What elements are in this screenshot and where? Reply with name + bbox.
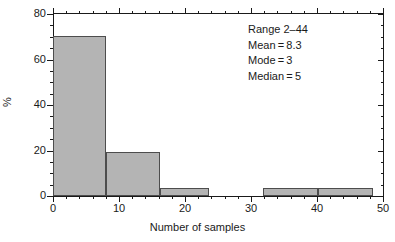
histogram-figure: 01020304050020406080 Number of samples %… xyxy=(0,0,395,242)
y-tick-major xyxy=(47,196,53,197)
x-tick-minor-top xyxy=(370,11,371,14)
x-tick-minor xyxy=(132,196,133,199)
y-tick-major-right xyxy=(378,151,384,152)
x-tick-minor xyxy=(198,196,199,199)
x-tick-minor xyxy=(159,196,160,199)
y-tick-minor xyxy=(50,71,53,72)
y-tick-minor xyxy=(50,37,53,38)
x-tick-minor-top xyxy=(304,11,305,14)
x-tick-minor-top xyxy=(264,11,265,14)
y-tick-major-right xyxy=(378,60,384,61)
y-tick-minor-right xyxy=(381,173,384,174)
x-tick-minor-top xyxy=(277,11,278,14)
histogram-bar xyxy=(318,188,373,196)
y-tick-minor xyxy=(50,116,53,117)
y-axis-title: % xyxy=(1,97,13,107)
x-tick-minor xyxy=(304,196,305,199)
x-tick-minor-top xyxy=(343,11,344,14)
x-tick-label: 40 xyxy=(302,202,332,214)
top-frame-line xyxy=(53,13,384,14)
x-tick-minor-top xyxy=(66,11,67,14)
x-tick-minor xyxy=(106,196,107,199)
statistics-annotation: Range 2–44 Mean = 8.3 Mode = 3 Median = … xyxy=(248,22,308,84)
y-tick-minor xyxy=(50,162,53,163)
x-tick-minor xyxy=(277,196,278,199)
stat-median: Median = 5 xyxy=(248,69,308,85)
y-tick-minor xyxy=(50,139,53,140)
x-tick-minor-top xyxy=(132,11,133,14)
x-tick-minor-top xyxy=(198,11,199,14)
x-tick-minor xyxy=(357,196,358,199)
x-axis-title: Number of samples xyxy=(0,221,395,233)
y-tick-minor-right xyxy=(381,128,384,129)
y-tick-minor-right xyxy=(381,71,384,72)
x-tick-minor-top xyxy=(106,11,107,14)
histogram-bar xyxy=(106,152,160,196)
y-tick-major-right xyxy=(378,196,384,197)
y-tick-minor-right xyxy=(381,185,384,186)
x-tick-minor xyxy=(93,196,94,199)
x-tick-major-top xyxy=(317,8,318,14)
y-tick-minor xyxy=(50,82,53,83)
y-tick-label: 0 xyxy=(16,189,46,201)
y-tick-major-right xyxy=(378,105,384,106)
x-tick-major-top xyxy=(53,8,54,14)
x-tick-minor-top xyxy=(79,11,80,14)
histogram-bar xyxy=(53,36,106,196)
x-tick-major-top xyxy=(185,8,186,14)
stat-mode: Mode = 3 xyxy=(248,53,308,69)
y-tick-minor xyxy=(50,94,53,95)
x-tick-minor xyxy=(79,196,80,199)
y-tick-minor xyxy=(50,173,53,174)
x-tick-label: 20 xyxy=(170,202,200,214)
y-tick-minor-right xyxy=(381,94,384,95)
x-tick-minor-top xyxy=(145,11,146,14)
x-tick-minor xyxy=(370,196,371,199)
x-tick-minor xyxy=(172,196,173,199)
x-tick-minor xyxy=(225,196,226,199)
x-tick-major-top xyxy=(251,8,252,14)
x-tick-label: 30 xyxy=(236,202,266,214)
x-tick-major-top xyxy=(119,8,120,14)
x-tick-minor xyxy=(343,196,344,199)
y-tick-minor-right xyxy=(381,82,384,83)
histogram-bar xyxy=(263,188,318,196)
x-tick-minor-top xyxy=(93,11,94,14)
y-tick-label: 20 xyxy=(16,144,46,156)
y-tick-minor xyxy=(50,48,53,49)
x-tick-minor xyxy=(145,196,146,199)
y-tick-label: 80 xyxy=(16,7,46,19)
y-tick-minor-right xyxy=(381,139,384,140)
stat-range: Range 2–44 xyxy=(248,22,308,38)
x-tick-minor xyxy=(211,196,212,199)
x-tick-minor-top xyxy=(172,11,173,14)
x-tick-minor xyxy=(264,196,265,199)
x-tick-minor xyxy=(66,196,67,199)
x-tick-minor-top xyxy=(211,11,212,14)
stat-mean: Mean = 8.3 xyxy=(248,38,308,54)
x-tick-label: 0 xyxy=(38,202,68,214)
x-tick-minor xyxy=(238,196,239,199)
y-tick-minor xyxy=(50,185,53,186)
histogram-bar xyxy=(160,188,210,196)
y-tick-major xyxy=(47,105,53,106)
y-tick-minor-right xyxy=(381,37,384,38)
y-tick-major xyxy=(47,60,53,61)
y-tick-minor-right xyxy=(381,116,384,117)
y-tick-minor xyxy=(50,25,53,26)
y-tick-major xyxy=(47,14,53,15)
y-tick-major-right xyxy=(378,14,384,15)
x-tick-minor-top xyxy=(330,11,331,14)
x-tick-minor-top xyxy=(159,11,160,14)
x-tick-label: 10 xyxy=(104,202,134,214)
y-tick-minor-right xyxy=(381,25,384,26)
y-tick-minor-right xyxy=(381,48,384,49)
x-tick-label: 50 xyxy=(368,202,395,214)
x-tick-minor-top xyxy=(238,11,239,14)
y-tick-major xyxy=(47,151,53,152)
x-tick-minor xyxy=(330,196,331,199)
x-tick-minor-top xyxy=(225,11,226,14)
x-tick-minor xyxy=(291,196,292,199)
y-tick-label: 40 xyxy=(16,98,46,110)
y-tick-minor xyxy=(50,128,53,129)
